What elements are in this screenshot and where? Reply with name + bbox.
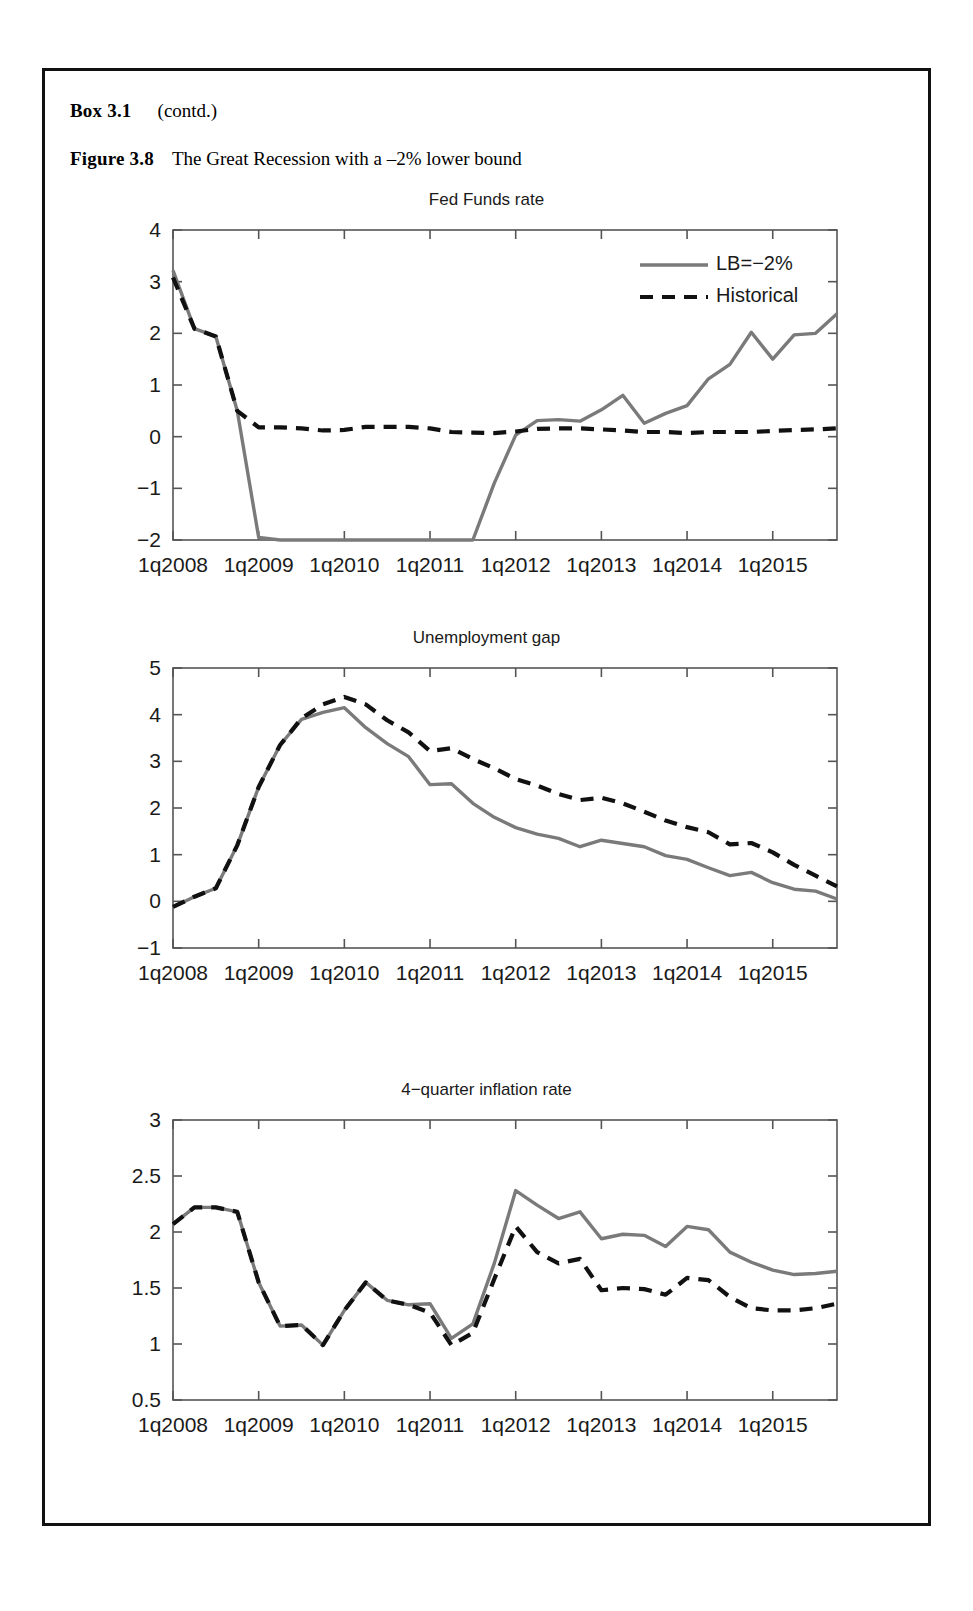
y-tick-label: 1.5: [132, 1276, 161, 1299]
series-line-lb-minus-2pct: [173, 270, 837, 540]
y-tick-label: 3: [149, 1108, 161, 1131]
chart-panel-inflation-rate: 4−quarter inflation rate 0.511.522.531q2…: [0, 1080, 973, 1480]
y-tick-label: −1: [137, 936, 161, 959]
y-tick-label: 5: [149, 656, 161, 679]
x-tick-label: 1q2009: [224, 961, 294, 984]
plot-frame: [173, 230, 837, 540]
y-tick-label: −1: [137, 476, 161, 499]
plot-area-fed-funds-rate: −2−1012341q20081q20091q20101q20111q20121…: [0, 190, 973, 590]
y-tick-label: 0: [149, 425, 161, 448]
x-tick-label: 1q2012: [481, 1413, 551, 1436]
y-tick-label: 2: [149, 796, 161, 819]
page-root: Box 3.1 (contd.) Figure 3.8 The Great Re…: [0, 0, 973, 1611]
plot-area-inflation-rate: 0.511.522.531q20081q20091q20101q20111q20…: [0, 1080, 973, 1480]
x-tick-label: 1q2008: [138, 961, 208, 984]
figure-label: Figure 3.8: [70, 148, 154, 170]
legend-label-historical: Historical: [716, 284, 798, 306]
y-tick-label: 0: [149, 889, 161, 912]
x-tick-label: 1q2012: [481, 961, 551, 984]
x-tick-label: 1q2014: [652, 553, 722, 576]
y-tick-label: 1: [149, 373, 161, 396]
figure-caption: Figure 3.8 The Great Recession with a –2…: [70, 148, 522, 170]
y-tick-label: 2: [149, 321, 161, 344]
box-contd-text: (contd.): [158, 100, 218, 122]
box-caption: Box 3.1 (contd.): [70, 100, 217, 122]
y-tick-label: 2: [149, 1220, 161, 1243]
x-tick-label: 1q2010: [309, 961, 379, 984]
x-tick-label: 1q2013: [566, 961, 636, 984]
x-tick-label: 1q2015: [738, 961, 808, 984]
x-tick-label: 1q2010: [309, 1413, 379, 1436]
y-tick-label: −2: [137, 528, 161, 551]
x-tick-label: 1q2011: [396, 553, 465, 576]
plot-frame: [173, 1120, 837, 1400]
series-line-lb-minus-2pct: [173, 708, 837, 907]
plot-area-unemployment-gap: −10123451q20081q20091q20101q20111q20121q…: [0, 628, 973, 1028]
y-tick-label: 0.5: [132, 1388, 161, 1411]
x-tick-label: 1q2011: [396, 1413, 465, 1436]
y-tick-label: 4: [149, 218, 161, 241]
x-tick-label: 1q2009: [224, 553, 294, 576]
x-tick-label: 1q2015: [738, 1413, 808, 1436]
box-label: Box 3.1: [70, 100, 132, 122]
x-tick-label: 1q2010: [309, 553, 379, 576]
x-tick-label: 1q2013: [566, 1413, 636, 1436]
x-tick-label: 1q2013: [566, 553, 636, 576]
plot-frame: [173, 668, 837, 948]
chart-panel-fed-funds-rate: Fed Funds rate −2−1012341q20081q20091q20…: [0, 190, 973, 590]
legend-label-lb-minus-2pct: LB=−2%: [716, 252, 793, 274]
x-tick-label: 1q2012: [481, 553, 551, 576]
y-tick-label: 2.5: [132, 1164, 161, 1187]
y-tick-label: 3: [149, 270, 161, 293]
series-line-lb-minus-2pct: [173, 1191, 837, 1346]
y-tick-label: 1: [149, 1332, 161, 1355]
chart-panel-unemployment-gap: Unemployment gap −10123451q20081q20091q2…: [0, 628, 973, 1028]
x-tick-label: 1q2014: [652, 961, 722, 984]
figure-caption-text: The Great Recession with a –2% lower bou…: [172, 148, 522, 170]
x-tick-label: 1q2014: [652, 1413, 722, 1436]
x-tick-label: 1q2008: [138, 1413, 208, 1436]
y-tick-label: 3: [149, 749, 161, 772]
y-tick-label: 4: [149, 703, 161, 726]
x-tick-label: 1q2008: [138, 553, 208, 576]
y-tick-label: 1: [149, 843, 161, 866]
x-tick-label: 1q2015: [738, 553, 808, 576]
x-tick-label: 1q2011: [396, 961, 465, 984]
x-tick-label: 1q2009: [224, 1413, 294, 1436]
